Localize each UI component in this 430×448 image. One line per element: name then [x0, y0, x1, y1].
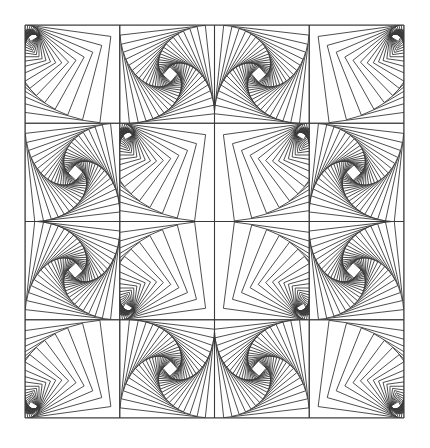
twisted-squares-quilt: [0, 0, 430, 448]
